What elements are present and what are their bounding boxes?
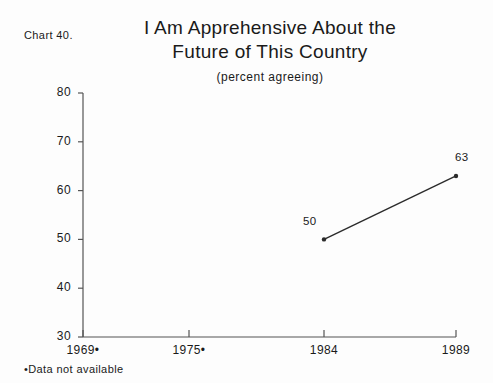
y-axis-tick-label: 70: [37, 134, 71, 148]
y-axis-ticks: [78, 93, 83, 337]
data-point-value-label: 50: [303, 215, 317, 227]
y-axis-tick-label: 30: [37, 329, 71, 343]
footnote-text: •Data not available: [24, 363, 124, 375]
x-axis-tick-label: 1984: [310, 343, 338, 357]
x-axis-tick-label: 1969•: [67, 343, 100, 357]
data-point-marker: [322, 237, 326, 241]
y-axis-tick-label: 40: [37, 280, 71, 294]
x-axis-ticks: [83, 330, 456, 337]
x-axis-tick-label: 1989: [442, 343, 470, 357]
data-point-marker: [454, 174, 458, 178]
data-series: [322, 174, 458, 242]
series-line-segment: [324, 176, 456, 239]
y-axis-tick-label: 60: [37, 183, 71, 197]
y-axis-tick-label: 80: [37, 85, 71, 99]
data-point-value-label: 63: [455, 151, 469, 163]
axes: [83, 93, 456, 337]
y-axis-tick-label: 50: [37, 231, 71, 245]
x-axis-tick-label: 1975•: [173, 343, 206, 357]
chart-figure: Chart 40. I Am Apprehensive About the Fu…: [0, 0, 493, 383]
plot-area: [0, 0, 493, 383]
